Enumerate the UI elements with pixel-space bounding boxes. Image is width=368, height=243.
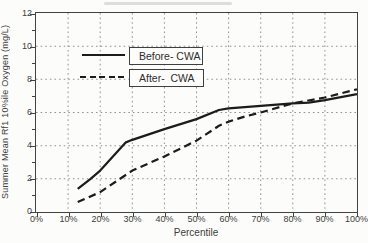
y-minor-tick-mark-3 <box>32 162 35 163</box>
plot-area: Before- CWA After- CWA <box>35 12 358 213</box>
x-tick-label-40: 40% <box>155 214 173 224</box>
chart-svg <box>36 13 357 212</box>
x-axis-title: Percentile <box>36 227 356 238</box>
x-tick-label-30: 30% <box>123 214 141 224</box>
y-minor-tick-mark-5 <box>32 129 35 130</box>
legend-line-sample-dashed-icon <box>80 76 127 78</box>
y-minor-tick-mark-11 <box>32 30 35 31</box>
x-tick-label-60: 60% <box>219 214 237 224</box>
x-tick-label-80: 80% <box>283 214 301 224</box>
x-tick-label-100: 100% <box>345 214 368 224</box>
y-tick-label-12: 12 <box>10 8 32 18</box>
legend-line-sample-solid-icon <box>82 54 125 56</box>
legend-item-after-cwa: After- CWA <box>129 69 204 87</box>
legend-label-after-cwa: After- CWA <box>139 72 195 84</box>
y-minor-tick-mark-1 <box>32 195 35 196</box>
series-line-before-cwa <box>78 94 357 189</box>
legend-item-before-cwa: Before- CWA <box>129 47 203 65</box>
scan-artifact <box>104 2 232 5</box>
y-tick-label-10: 10 <box>10 41 32 51</box>
legend-label-before-cwa: Before- CWA <box>139 50 200 62</box>
y-minor-tick-mark-9 <box>32 63 35 64</box>
y-tick-label-8: 8 <box>10 74 32 84</box>
y-tick-label-2: 2 <box>10 173 32 183</box>
y-tick-label-4: 4 <box>10 140 32 150</box>
oxygen-percentile-chart: Summer Mean Rf1 10%ile Oxygen (mg/L) Bef… <box>0 0 368 243</box>
y-minor-tick-mark-7 <box>32 96 35 97</box>
x-tick-label-70: 70% <box>251 214 269 224</box>
y-tick-label-6: 6 <box>10 107 32 117</box>
x-tick-label-20: 20% <box>91 214 109 224</box>
x-tick-label-50: 50% <box>187 214 205 224</box>
x-tick-label-10: 10% <box>59 214 77 224</box>
x-tick-label-90: 90% <box>315 214 333 224</box>
y-tick-label-0: 0 <box>10 206 32 216</box>
